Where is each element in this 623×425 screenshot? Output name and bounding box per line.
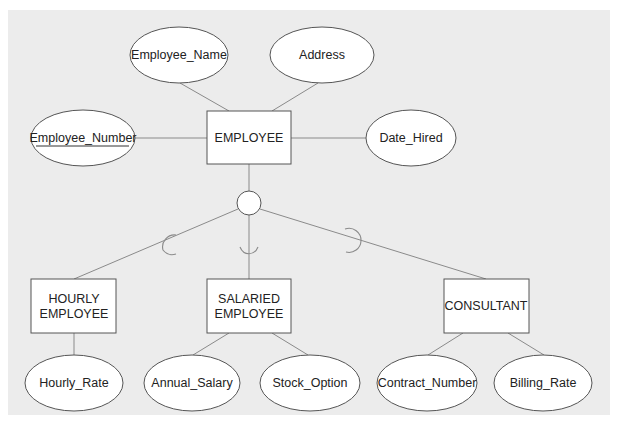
attribute-label: Billing_Rate <box>510 376 577 390</box>
entity-label-line2: EMPLOYEE <box>40 307 109 321</box>
key-attribute-label: Employee_Number <box>30 131 137 145</box>
entity-box <box>207 279 291 333</box>
eer-diagram: Employee_Name Address Employee_Number Da… <box>0 0 623 425</box>
entity-employee[interactable]: EMPLOYEE <box>207 111 291 164</box>
entity-label-line1: HOURLY <box>48 292 100 306</box>
attribute-contract-number[interactable]: Contract_Number <box>377 355 477 411</box>
entity-box <box>31 279 116 333</box>
entity-hourly-employee[interactable]: HOURLY EMPLOYEE <box>31 279 116 333</box>
attribute-label: Employee_Name <box>131 48 227 62</box>
entity-label-line2: EMPLOYEE <box>215 307 284 321</box>
entity-label-line1: SALARIED <box>218 292 280 306</box>
attribute-label: Date_Hired <box>379 131 442 145</box>
attribute-label: Hourly_Rate <box>39 376 109 390</box>
attribute-billing-rate[interactable]: Billing_Rate <box>494 355 592 411</box>
subtype-circle <box>237 191 261 215</box>
attribute-label: Stock_Option <box>272 376 347 390</box>
attribute-employee-name[interactable]: Employee_Name <box>130 27 228 83</box>
entity-label: CONSULTANT <box>445 299 528 313</box>
attribute-stock-option[interactable]: Stock_Option <box>260 355 360 411</box>
attribute-date-hired[interactable]: Date_Hired <box>366 110 456 166</box>
attribute-employee-number[interactable]: Employee_Number <box>30 110 137 166</box>
attribute-label: Address <box>299 48 345 62</box>
attribute-annual-salary[interactable]: Annual_Salary <box>144 355 240 411</box>
attribute-address[interactable]: Address <box>270 27 374 83</box>
attribute-label: Annual_Salary <box>151 376 233 390</box>
entity-consultant[interactable]: CONSULTANT <box>444 279 529 333</box>
attribute-label: Contract_Number <box>378 376 477 390</box>
entity-label: EMPLOYEE <box>215 131 284 145</box>
attribute-hourly-rate[interactable]: Hourly_Rate <box>25 355 123 411</box>
entity-salaried-employee[interactable]: SALARIED EMPLOYEE <box>207 279 291 333</box>
